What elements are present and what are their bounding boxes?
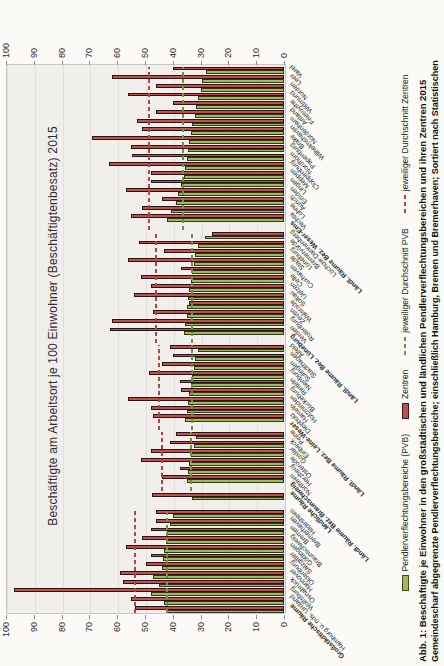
bar-pvb-50: [184, 175, 284, 179]
zentren-average-dash-icon: [404, 195, 406, 213]
bar-zentren-45: [131, 214, 284, 218]
bar-pvb-26: [191, 384, 284, 388]
avg-line-pvb-leine: [191, 345, 193, 430]
bar-zentren-47: [162, 197, 284, 201]
bar-zentren-2: [14, 588, 284, 592]
bar-pvb-49: [181, 183, 284, 187]
bar-zentren-34: [153, 310, 284, 314]
legend-label-avg-pvb: jeweiliger Durchschnitt PVB: [400, 228, 410, 332]
bar-pvb-34: [187, 314, 284, 318]
avg-line-zentren-braunschweig: [161, 432, 163, 491]
bar-pvb-25: [189, 392, 284, 396]
bar-zentren-38: [141, 275, 284, 279]
bar-pvb-1: [164, 601, 284, 605]
figure-caption-line1: Abb. 1: Beschäftigte je Einwohner in den…: [417, 0, 428, 662]
axis-tick-label-right: 100: [1, 32, 11, 58]
bar-zentren-9: [151, 528, 284, 532]
axis-tick-right: [256, 61, 257, 65]
bar-zentren-52: [132, 154, 284, 158]
axis-tick-label-left: 40: [168, 622, 178, 648]
category-label: Großstädtische Räume: [288, 603, 346, 661]
bar-zentren-61: [112, 75, 284, 79]
axis-tick-label-right: 60: [112, 32, 122, 58]
bar-pvb-3: [159, 584, 284, 588]
bar-zentren-23: [151, 406, 284, 410]
bar-pvb-40: [194, 262, 284, 266]
bar-pvb-53: [188, 149, 284, 153]
bar-pvb-61: [202, 79, 284, 83]
axis-tick-label-left: 30: [196, 622, 206, 648]
axis-tick-label-left: 50: [140, 622, 150, 648]
category-label: Hamburg u. nds. Umland: [288, 594, 346, 652]
bar-zentren-57: [156, 110, 284, 114]
axis-tick-left: [256, 615, 257, 619]
axis-tick-label-right: 90: [29, 32, 39, 58]
bar-pvb-43: [205, 236, 284, 240]
grid-line: [63, 65, 64, 613]
axis-tick-right: [201, 61, 202, 65]
axis-tick-left: [117, 615, 118, 619]
axis-tick-right: [145, 61, 146, 65]
avg-line-pvb-braunschweig: [190, 432, 192, 491]
avg-line-pvb-weser: [182, 67, 184, 230]
bar-zentren-39: [181, 267, 284, 271]
bar-zentren-6: [151, 554, 284, 558]
bar-pvb-59: [198, 96, 284, 100]
bar-pvb-55: [191, 131, 284, 135]
bar-pvb-20: [196, 436, 284, 440]
avg-line-pvb-lueneburg: [191, 232, 193, 343]
bar-zentren-53: [131, 145, 284, 149]
axis-tick-label-left: 80: [57, 622, 67, 648]
bar-pvb-8: [166, 540, 284, 544]
bar-pvb-52: [187, 157, 284, 161]
bar-zentren-8: [142, 536, 284, 540]
legend: Pendlerverflechtungsbereiche (PVB) Zentr…: [400, 0, 410, 666]
bar-pvb-27: [192, 375, 284, 379]
axis-tick-label-left: 90: [29, 622, 39, 648]
axis-tick-left: [89, 615, 90, 619]
bar-pvb-7: [164, 549, 284, 553]
bar-zentren-35: [189, 301, 284, 305]
bar-pvb-56: [192, 123, 284, 127]
avg-line-zentren-leine: [158, 345, 160, 430]
bar-zentren-25: [181, 388, 284, 392]
axis-tick-right: [117, 61, 118, 65]
axis-tick-left: [228, 615, 229, 619]
bar-zentren-58: [173, 101, 284, 105]
bar-zentren-24: [128, 397, 284, 401]
avg-line-zentren-lueneburg: [155, 232, 157, 343]
avg-line-pvb-gross: [166, 511, 168, 613]
bar-zentren-54: [92, 136, 284, 140]
bar-zentren-62: [173, 67, 284, 71]
bar-zentren-1: [131, 597, 284, 601]
bar-zentren-49: [151, 180, 284, 184]
bar-zentren-15: [162, 475, 284, 479]
axis-tick-right: [34, 61, 35, 65]
bar-zentren-50: [151, 171, 284, 175]
axis-tick-left: [201, 615, 202, 619]
bar-pvb-13: [192, 497, 284, 501]
axis-tick-right: [228, 61, 229, 65]
bar-pvb-47: [176, 201, 284, 205]
legend-item-avg-zentren: jeweiliger Durchschnitt Zentren: [400, 75, 410, 214]
grid-line: [35, 65, 36, 613]
legend-label-zentren: Zentren: [400, 370, 410, 399]
bar-pvb-58: [196, 105, 284, 109]
axis-tick-left: [6, 615, 7, 619]
bar-zentren-4: [120, 571, 284, 575]
bar-pvb-5: [162, 566, 284, 570]
bar-zentren-13: [152, 493, 284, 497]
bar-zentren-28: [162, 362, 284, 366]
axis-tick-label-right: 70: [84, 32, 94, 58]
bar-zentren-18: [151, 449, 284, 453]
axis-tick-label-right: 40: [168, 32, 178, 58]
bar-pvb-0: [167, 610, 284, 614]
axis-tick-label-right: 50: [140, 32, 150, 58]
avg-line-zentren-weser: [148, 67, 150, 230]
legend-item-zentren: Zentren: [400, 370, 410, 419]
bar-pvb-23: [187, 410, 284, 414]
axis-tick-label-right: 20: [223, 32, 233, 58]
bar-zentren-55: [142, 127, 284, 131]
bar-pvb-33: [185, 323, 284, 327]
bar-zentren-59: [128, 93, 284, 97]
